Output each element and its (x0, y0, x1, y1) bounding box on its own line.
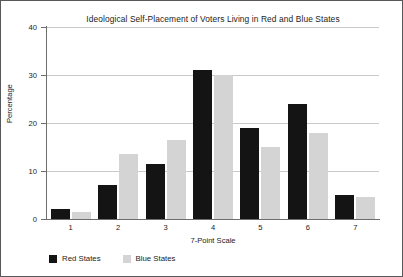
x-axis-title: 7-Point Scale (47, 236, 379, 245)
x-tick-label: 3 (154, 223, 178, 232)
legend-label: Blue States (136, 254, 176, 263)
legend-swatch (123, 255, 131, 263)
x-tick-label: 6 (296, 223, 320, 232)
y-tick-mark (41, 75, 46, 76)
gridline (47, 27, 379, 28)
bar (119, 154, 138, 219)
y-tick-label: 20 (7, 119, 37, 128)
x-axis-line (46, 219, 380, 220)
x-tick-label: 1 (59, 223, 83, 232)
bar (356, 197, 375, 219)
bar (214, 75, 233, 219)
legend-item: Red States (49, 254, 101, 263)
x-tick-label: 7 (343, 223, 367, 232)
plot-area (47, 27, 379, 219)
y-tick-label: 0 (7, 215, 37, 224)
y-tick-mark (41, 27, 46, 28)
y-tick-label: 10 (7, 167, 37, 176)
bar (309, 133, 328, 219)
bar (240, 128, 259, 219)
legend-label: Red States (62, 254, 101, 263)
bar (146, 164, 165, 219)
bar (72, 212, 91, 219)
x-tick-label: 5 (248, 223, 272, 232)
x-tick-label: 4 (201, 223, 225, 232)
bar (288, 104, 307, 219)
y-tick-mark (41, 219, 46, 220)
chart-figure: Ideological Self-Placement of Voters Liv… (0, 0, 403, 277)
chart-title: Ideological Self-Placement of Voters Liv… (47, 14, 379, 24)
bar (98, 185, 117, 219)
y-axis-title: Percentage (5, 84, 14, 123)
legend-item: Blue States (123, 254, 176, 263)
bar (167, 140, 186, 219)
y-tick-label: 30 (7, 71, 37, 80)
bar (261, 147, 280, 219)
y-tick-mark (41, 171, 46, 172)
chart-legend: Red StatesBlue States (49, 254, 175, 263)
legend-swatch (49, 255, 57, 263)
x-tick-label: 2 (106, 223, 130, 232)
gridline (47, 75, 379, 76)
bar (193, 70, 212, 219)
bar (335, 195, 354, 219)
y-tick-mark (41, 123, 46, 124)
gridline (47, 123, 379, 124)
bar (51, 209, 70, 219)
y-tick-label: 40 (7, 23, 37, 32)
gridline (47, 171, 379, 172)
